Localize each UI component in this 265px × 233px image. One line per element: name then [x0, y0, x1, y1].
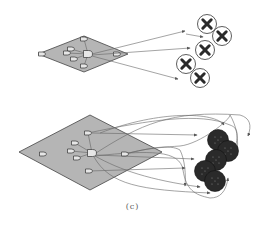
gate-icon [39, 52, 46, 56]
bottom-panel [19, 114, 250, 198]
gate-icon [81, 64, 88, 68]
figure-caption: (c) [0, 202, 265, 211]
gate-icon [122, 152, 129, 156]
gate-icon [68, 149, 75, 153]
x-circle-icon [191, 69, 210, 88]
connection-arrow [92, 56, 178, 79]
gate-icon [64, 51, 71, 55]
gate-icon [86, 169, 93, 173]
connection-arrow [92, 31, 185, 54]
x-circle-icon [213, 27, 232, 46]
top-panel [38, 15, 232, 88]
x-circle-icon [177, 55, 196, 74]
connection-arrow [186, 34, 203, 37]
gate-icon [81, 37, 88, 41]
gate-icon [68, 47, 75, 51]
x-circle-icon [196, 41, 215, 60]
gate-icon [40, 152, 47, 156]
gate-icon [114, 52, 121, 56]
diagram-figure [0, 0, 265, 233]
gate-icon [72, 141, 79, 145]
hub-gate-icon [84, 51, 93, 58]
hub-gate-icon [88, 150, 97, 157]
x-circle-icon [198, 15, 217, 34]
gate-icon [85, 131, 92, 135]
gate-icon [71, 57, 78, 61]
gate-icon [74, 156, 81, 160]
dark-circle-icon [205, 171, 226, 192]
